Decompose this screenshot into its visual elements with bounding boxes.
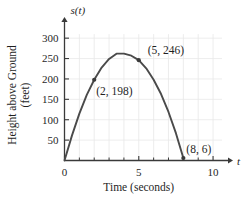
y-axis-caption-line2: (feet): [19, 82, 32, 107]
y-axis-arrowhead: [61, 17, 67, 22]
x-tick-label: 0: [62, 166, 68, 178]
data-point-marker: [181, 156, 185, 160]
y-axis-caption-line1: Height above Ground: [6, 45, 19, 145]
x-axis-symbol-label: t: [237, 155, 241, 167]
axis-tick-labels: 051050100150200250300: [42, 32, 219, 177]
graph-figure: 051050100150200250300 (2, 198)(5, 246)(8…: [0, 0, 241, 198]
y-tick-label: 250: [42, 52, 59, 64]
x-axis-arrowhead: [228, 157, 233, 163]
y-tick-label: 50: [48, 134, 60, 146]
axes: [61, 17, 233, 164]
y-tick-label: 150: [42, 93, 59, 105]
y-tick-label: 200: [42, 73, 59, 85]
graph-canvas: 051050100150200250300 (2, 198)(5, 246)(8…: [0, 0, 241, 198]
x-tick-label: 5: [136, 166, 142, 178]
point-label: (8, 6): [186, 143, 211, 156]
point-label: (5, 246): [148, 44, 185, 57]
x-axis-caption: Time (seconds): [103, 181, 174, 194]
data-point-marker: [137, 58, 141, 62]
gridlines: [65, 34, 222, 160]
y-tick-label: 100: [42, 114, 59, 126]
x-tick-label: 10: [208, 166, 220, 178]
y-tick-label: 300: [42, 32, 59, 44]
y-axis-symbol-label: s(t): [71, 4, 86, 17]
point-label: (2, 198): [96, 85, 133, 98]
data-point-marker: [92, 78, 96, 82]
